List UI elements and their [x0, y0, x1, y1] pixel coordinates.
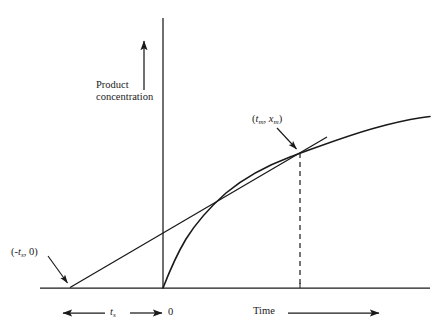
x-axis-label: Time: [253, 305, 275, 317]
tangent-line: [70, 137, 327, 288]
inflection-point-label: (tm, xm): [252, 113, 282, 125]
plot-canvas: [0, 0, 441, 336]
inflection-pointer-arrow: [277, 128, 297, 149]
y-axis-label-line1: Product: [96, 79, 164, 91]
figure-container: Product concentration (tm, xm) (-ts, 0) …: [0, 0, 441, 336]
intercept-pointer-arrow: [48, 256, 68, 283]
lag-time-label: ts: [110, 306, 116, 318]
intercept-point-label: (-ts, 0): [11, 246, 38, 258]
y-axis-label: Product concentration: [96, 79, 164, 103]
intercept-paren-open: (-: [11, 246, 18, 257]
intercept-t-subscript: s: [21, 251, 24, 259]
inflection-x-subscript: m: [274, 118, 279, 126]
inflection-paren-close: ): [279, 113, 283, 124]
inflection-x-symbol: x: [269, 113, 274, 124]
intercept-rest: , 0): [24, 246, 38, 257]
lag-time-subscript: s: [113, 311, 116, 319]
inflection-t-subscript: m: [258, 118, 263, 126]
product-concentration-curve: [163, 117, 430, 289]
origin-tick-label: 0: [168, 306, 173, 318]
y-axis-label-line2: concentration: [96, 91, 164, 103]
